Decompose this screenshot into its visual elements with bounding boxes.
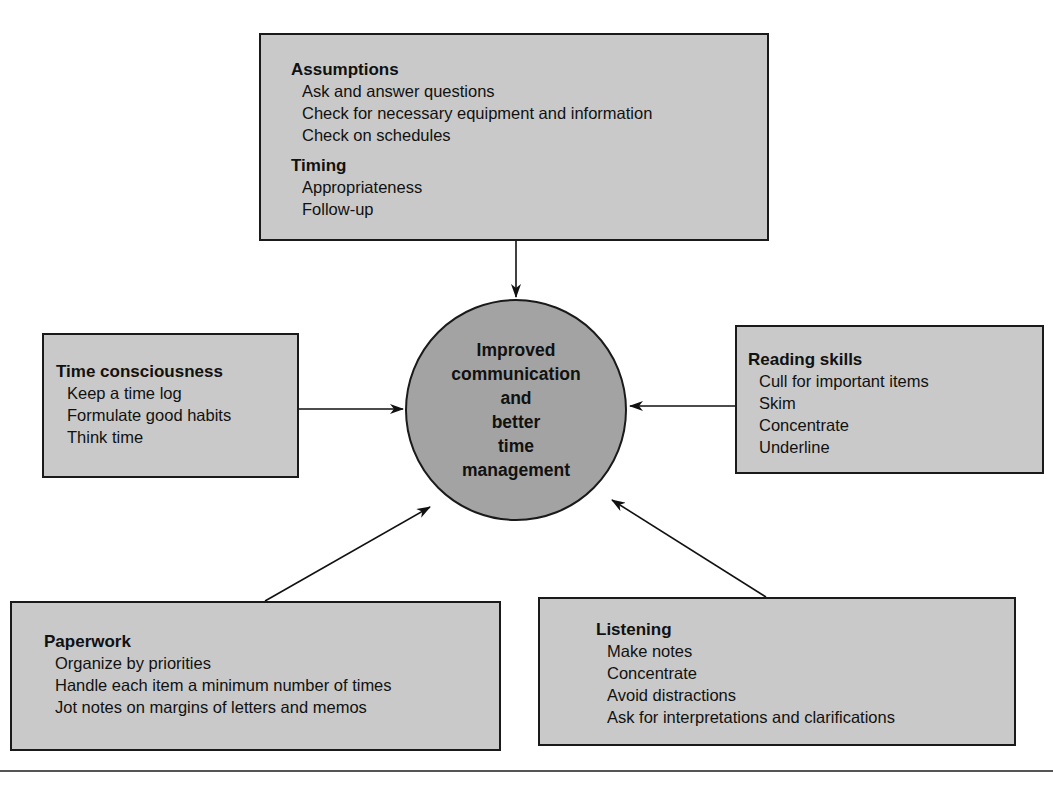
item: Ask and answer questions <box>291 80 767 102</box>
arrow-bottom-left-to-center <box>265 507 430 601</box>
group-paperwork: Paperwork Organize by priorities Handle … <box>44 631 499 718</box>
item: Concentrate <box>596 662 1014 684</box>
item: Check on schedules <box>291 124 767 146</box>
group-reading-skills: Reading skills Cull for important items … <box>748 349 1042 458</box>
item: Check for necessary equipment and inform… <box>291 102 767 124</box>
center-line: management <box>451 458 580 482</box>
center-line: communication <box>451 362 580 386</box>
item: Handle each item a minimum number of tim… <box>44 674 499 696</box>
item: Jot notes on margins of letters and memo… <box>44 696 499 718</box>
center-goal-text: Improved communication and better time m… <box>451 338 580 482</box>
box-paperwork: Paperwork Organize by priorities Handle … <box>10 601 501 751</box>
center-line: better <box>451 410 580 434</box>
item: Follow-up <box>291 198 767 220</box>
arrow-bottom-right-to-center <box>612 500 766 597</box>
center-line: Improved <box>451 338 580 362</box>
heading-time-consciousness: Time consciousness <box>56 361 297 382</box>
box-time-consciousness: Time consciousness Keep a time log Formu… <box>42 333 299 478</box>
group-assumptions: Assumptions Ask and answer questions Che… <box>291 59 767 146</box>
heading-timing: Timing <box>291 155 767 176</box>
box-assumptions-timing: Assumptions Ask and answer questions Che… <box>259 33 769 241</box>
horizontal-rule <box>0 770 1053 772</box>
item: Skim <box>748 392 1042 414</box>
item: Organize by priorities <box>44 652 499 674</box>
group-timing: Timing Appropriateness Follow-up <box>291 155 767 220</box>
group-time-consciousness: Time consciousness Keep a time log Formu… <box>56 361 297 448</box>
item: Cull for important items <box>748 370 1042 392</box>
item: Ask for interpretations and clarificatio… <box>596 706 1014 728</box>
heading-reading-skills: Reading skills <box>748 349 1042 370</box>
box-reading-skills: Reading skills Cull for important items … <box>735 325 1044 474</box>
center-line: and <box>451 386 580 410</box>
group-listening: Listening Make notes Concentrate Avoid d… <box>596 619 1014 728</box>
item: Make notes <box>596 640 1014 662</box>
item: Underline <box>748 436 1042 458</box>
heading-assumptions: Assumptions <box>291 59 767 80</box>
heading-listening: Listening <box>596 619 1014 640</box>
center-goal-circle: Improved communication and better time m… <box>405 299 627 521</box>
item: Avoid distractions <box>596 684 1014 706</box>
heading-paperwork: Paperwork <box>44 631 499 652</box>
item: Think time <box>56 426 297 448</box>
item: Keep a time log <box>56 382 297 404</box>
item: Formulate good habits <box>56 404 297 426</box>
item: Appropriateness <box>291 176 767 198</box>
box-listening: Listening Make notes Concentrate Avoid d… <box>538 597 1016 746</box>
item: Concentrate <box>748 414 1042 436</box>
center-line: time <box>451 434 580 458</box>
